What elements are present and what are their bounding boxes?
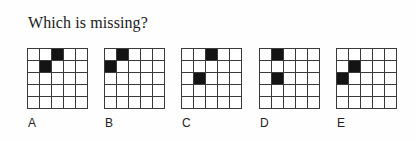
empty-cell — [194, 61, 206, 73]
option-c-label: C — [182, 116, 191, 130]
empty-cell — [218, 73, 230, 85]
empty-cell — [296, 97, 308, 109]
empty-cell — [105, 97, 117, 109]
empty-cell — [349, 85, 361, 97]
option-e-grid — [336, 48, 397, 109]
option-a[interactable]: A — [27, 48, 91, 109]
empty-cell — [361, 73, 373, 85]
empty-cell — [308, 97, 320, 109]
empty-cell — [206, 61, 218, 73]
empty-cell — [206, 97, 218, 109]
empty-cell — [64, 61, 76, 73]
empty-cell — [76, 73, 88, 85]
empty-cell — [385, 97, 397, 109]
empty-cell — [129, 85, 141, 97]
empty-cell — [373, 85, 385, 97]
empty-cell — [28, 61, 40, 73]
answer-options: A B C D E — [0, 0, 416, 141]
empty-cell — [153, 85, 165, 97]
empty-cell — [40, 97, 52, 109]
empty-cell — [76, 61, 88, 73]
filled-cell — [272, 73, 284, 85]
empty-cell — [117, 85, 129, 97]
empty-cell — [260, 49, 272, 61]
empty-cell — [182, 97, 194, 109]
empty-cell — [284, 97, 296, 109]
empty-cell — [361, 49, 373, 61]
empty-cell — [361, 85, 373, 97]
empty-cell — [141, 61, 153, 73]
option-b[interactable]: B — [104, 48, 168, 109]
empty-cell — [52, 61, 64, 73]
empty-cell — [129, 97, 141, 109]
empty-cell — [64, 49, 76, 61]
empty-cell — [284, 49, 296, 61]
empty-cell — [284, 85, 296, 97]
empty-cell — [284, 61, 296, 73]
empty-cell — [141, 73, 153, 85]
empty-cell — [385, 49, 397, 61]
empty-cell — [194, 97, 206, 109]
empty-cell — [296, 73, 308, 85]
empty-cell — [129, 49, 141, 61]
filled-cell — [349, 61, 361, 73]
empty-cell — [129, 61, 141, 73]
empty-cell — [337, 85, 349, 97]
filled-cell — [117, 49, 129, 61]
option-b-label: B — [105, 116, 113, 130]
empty-cell — [308, 61, 320, 73]
empty-cell — [76, 49, 88, 61]
empty-cell — [76, 85, 88, 97]
empty-cell — [373, 97, 385, 109]
empty-cell — [385, 61, 397, 73]
filled-cell — [206, 49, 218, 61]
empty-cell — [40, 49, 52, 61]
empty-cell — [373, 49, 385, 61]
empty-cell — [272, 97, 284, 109]
empty-cell — [64, 85, 76, 97]
empty-cell — [230, 49, 242, 61]
empty-cell — [230, 85, 242, 97]
empty-cell — [361, 97, 373, 109]
empty-cell — [296, 49, 308, 61]
empty-cell — [153, 49, 165, 61]
empty-cell — [218, 61, 230, 73]
empty-cell — [141, 85, 153, 97]
empty-cell — [308, 73, 320, 85]
empty-cell — [105, 49, 117, 61]
empty-cell — [349, 49, 361, 61]
filled-cell — [40, 61, 52, 73]
empty-cell — [385, 73, 397, 85]
empty-cell — [76, 97, 88, 109]
empty-cell — [206, 85, 218, 97]
empty-cell — [64, 73, 76, 85]
empty-cell — [52, 73, 64, 85]
empty-cell — [296, 85, 308, 97]
empty-cell — [105, 85, 117, 97]
empty-cell — [349, 97, 361, 109]
empty-cell — [28, 73, 40, 85]
empty-cell — [230, 97, 242, 109]
option-e-label: E — [337, 116, 345, 130]
option-d[interactable]: D — [259, 48, 323, 109]
empty-cell — [218, 85, 230, 97]
empty-cell — [182, 49, 194, 61]
option-e[interactable]: E — [336, 48, 400, 109]
empty-cell — [52, 85, 64, 97]
empty-cell — [194, 85, 206, 97]
empty-cell — [361, 61, 373, 73]
empty-cell — [194, 49, 206, 61]
empty-cell — [337, 61, 349, 73]
option-d-grid — [259, 48, 320, 109]
empty-cell — [141, 97, 153, 109]
empty-cell — [40, 73, 52, 85]
empty-cell — [182, 61, 194, 73]
empty-cell — [28, 49, 40, 61]
option-a-label: A — [28, 116, 36, 130]
empty-cell — [64, 97, 76, 109]
filled-cell — [105, 61, 117, 73]
empty-cell — [284, 73, 296, 85]
empty-cell — [153, 73, 165, 85]
empty-cell — [218, 97, 230, 109]
option-c[interactable]: C — [181, 48, 245, 109]
